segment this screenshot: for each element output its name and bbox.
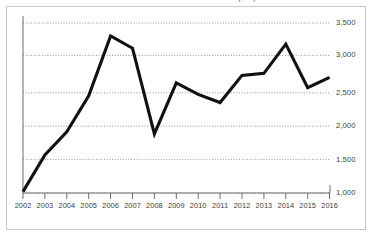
y-tick-label-1500: 1,500	[336, 156, 356, 164]
y-tick-label-2000: 2,000	[336, 122, 356, 130]
y-tick-label-3000: 3,000	[336, 51, 356, 59]
x-tick-label-2016: 2016	[317, 202, 343, 210]
y-tick-label-2500: 2,500	[336, 89, 356, 97]
axis-spines	[23, 16, 330, 193]
y-tick-label-1000: 1,000	[336, 189, 356, 197]
data-line-series-1	[23, 36, 330, 192]
chart-figure: International bond issuance volume ($bn)	[0, 0, 372, 238]
x-axis-ticks	[23, 193, 330, 199]
y-tick-label-3500: 3,500	[336, 19, 356, 27]
